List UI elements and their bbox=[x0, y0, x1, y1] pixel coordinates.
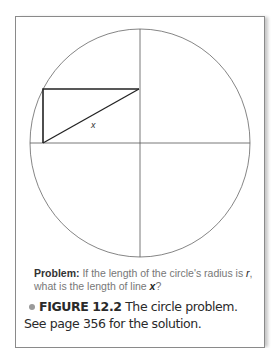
line-x-label: x bbox=[90, 120, 96, 130]
line-x bbox=[43, 89, 139, 143]
problem-text-line2: what is the length of line bbox=[34, 280, 150, 292]
figure-number: FIGURE 12.2 bbox=[39, 299, 122, 314]
problem-statement: Problem: If the length of the circle's r… bbox=[34, 267, 264, 293]
figure-caption: FIGURE 12.2 The circle problem. See page… bbox=[24, 298, 262, 332]
problem-label: Problem: bbox=[34, 267, 80, 279]
bullet-icon bbox=[29, 304, 35, 310]
problem-text-end: ? bbox=[155, 280, 161, 292]
problem-text-2: , bbox=[250, 267, 253, 279]
problem-text-1: If the length of the circle's radius is bbox=[80, 267, 247, 279]
